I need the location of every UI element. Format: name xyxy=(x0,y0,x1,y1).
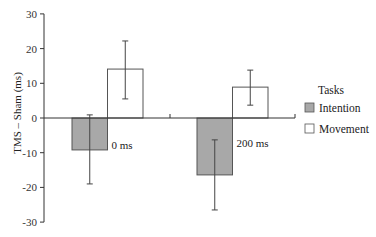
legend-swatch-movement xyxy=(305,124,314,133)
y-tick-label: 30 xyxy=(26,8,38,20)
y-tick-label: -20 xyxy=(22,181,37,193)
y-tick-label: 10 xyxy=(26,77,38,89)
legend-title: Tasks xyxy=(318,84,345,96)
bars: 0 ms200 ms xyxy=(72,41,269,210)
legend-swatch-intention xyxy=(305,103,314,112)
y-axis-label: TMS – Sham (ms) xyxy=(11,72,24,154)
y-axis: 3020100-10-20-30 xyxy=(22,8,44,228)
y-tick-label: 20 xyxy=(26,43,38,55)
y-tick-label: 0 xyxy=(32,112,38,124)
legend-label-intention: Intention xyxy=(319,102,361,114)
category-label: 0 ms xyxy=(112,139,133,151)
bar-chart: 3020100-10-20-30 0 ms200 ms TMS – Sham (… xyxy=(0,0,376,237)
y-tick-label: -30 xyxy=(22,216,37,228)
legend-label-movement: Movement xyxy=(319,123,370,135)
legend: Tasks Intention Movement xyxy=(305,84,370,135)
category-label: 200 ms xyxy=(237,137,269,149)
y-tick-label: -10 xyxy=(22,147,37,159)
